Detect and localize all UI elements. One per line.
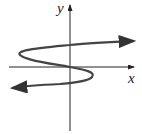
upper-arrow-icon — [120, 41, 134, 42]
lower-arrow-icon — [12, 87, 25, 88]
x-axis-label: x — [128, 71, 135, 86]
graph — [0, 0, 142, 134]
y-axis-label: y — [57, 1, 64, 16]
s-curve — [12, 41, 134, 88]
